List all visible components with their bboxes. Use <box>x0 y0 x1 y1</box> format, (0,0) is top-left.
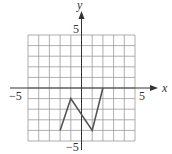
x-axis-label: x <box>162 82 167 94</box>
x-axis-arrow-icon <box>150 85 158 91</box>
y-tick-label-pos: 5 <box>73 23 79 35</box>
y-axis-arrow-icon <box>79 11 85 19</box>
x-tick-label-neg: −5 <box>9 90 22 102</box>
axes <box>10 11 158 150</box>
coordinate-plane <box>0 0 172 154</box>
y-axis-label: y <box>77 0 82 11</box>
x-tick-label-pos: 5 <box>139 90 145 102</box>
y-tick-label-neg: −5 <box>66 141 79 153</box>
